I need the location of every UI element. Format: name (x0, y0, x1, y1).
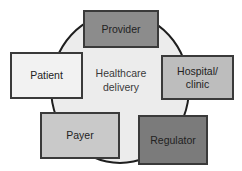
payer-box: Payer (40, 112, 120, 159)
center-label-line2: delivery (86, 80, 156, 94)
hospital-label-line1: Hospital/ (177, 65, 218, 78)
payer-label: Payer (66, 129, 93, 142)
hospital-label-line2: clinic (177, 78, 218, 91)
regulator-label: Regulator (150, 134, 196, 147)
provider-box: Provider (83, 10, 159, 48)
provider-label: Provider (101, 23, 140, 36)
regulator-box: Regulator (138, 115, 208, 165)
center-label: Healthcare delivery (86, 66, 156, 94)
patient-box: Patient (10, 52, 83, 99)
hospital-clinic-box: Hospital/ clinic (161, 55, 234, 100)
center-label-line1: Healthcare (86, 66, 156, 80)
patient-label: Patient (30, 69, 63, 82)
